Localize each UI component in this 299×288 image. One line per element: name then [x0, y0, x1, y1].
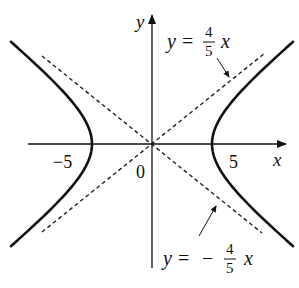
origin-label: 0: [136, 162, 145, 182]
svg-text:y: y: [161, 247, 172, 270]
asymptote-lower-label: y = − 4 5 x: [161, 241, 253, 276]
asymptote-upper-label: y = 4 5 x: [165, 24, 230, 59]
svg-text:5: 5: [226, 260, 234, 276]
x-axis-label: x: [272, 149, 282, 170]
asymptote-lower-pointer: [199, 206, 216, 236]
svg-text:5: 5: [205, 43, 213, 59]
svg-text:x: x: [243, 247, 253, 269]
x-tick-neg5: −5: [53, 152, 72, 172]
asymptote-upper-line: [42, 53, 265, 232]
svg-text:4: 4: [226, 241, 234, 257]
svg-text:x: x: [220, 30, 230, 52]
svg-text:=: =: [182, 30, 193, 52]
x-tick-5: 5: [229, 152, 238, 172]
y-axis-label: y: [134, 11, 145, 32]
svg-text:4: 4: [205, 24, 213, 40]
svg-text:y: y: [165, 30, 176, 53]
asymptote-upper-pointer: [217, 58, 229, 77]
svg-text:−: −: [202, 247, 213, 269]
hyperbola-diagram: y x 0 −5 5 y = 4 5 x y = − 4 5 x: [0, 0, 299, 288]
svg-text:=: =: [178, 247, 189, 269]
